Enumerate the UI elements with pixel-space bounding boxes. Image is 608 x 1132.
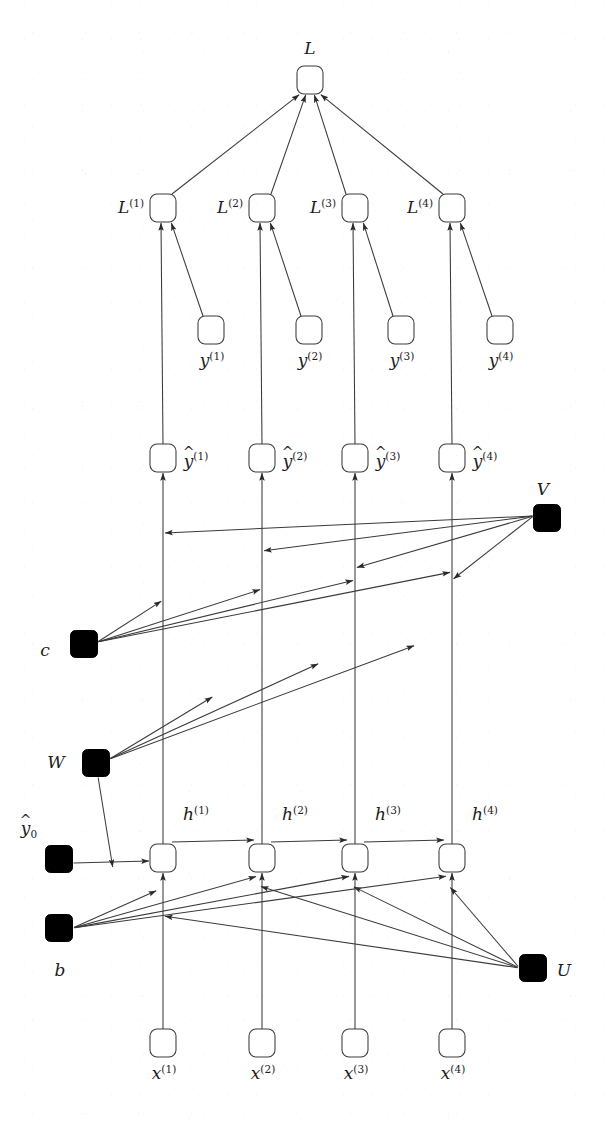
edge-U-to-hidden-2 xyxy=(261,887,518,968)
label-per-step-loss-2: L(2) xyxy=(217,198,243,217)
node-prediction-3 xyxy=(342,444,368,472)
edge-loss-4-to-total-loss xyxy=(321,95,443,194)
edge-W-to-hidden-1 xyxy=(98,777,113,867)
label-target-2: y(2) xyxy=(298,351,322,370)
label-per-step-loss-4: L(4) xyxy=(407,198,433,217)
node-prediction-1 xyxy=(150,444,176,472)
label-prediction-2: y^(2) xyxy=(283,451,307,470)
figure-canvas: LL(1)L(2)L(3)L(4)y(1)y(2)y(3)y(4)y^(1)y^… xyxy=(0,0,608,1132)
node-hidden-1 xyxy=(150,844,176,872)
label-prediction-4: y^(4) xyxy=(473,451,497,470)
edge-recurrent-hidden-3-to-4 xyxy=(364,840,444,842)
edge-prediction-to-loss-1 xyxy=(161,223,163,444)
edge-prediction-to-loss-3 xyxy=(353,223,355,444)
label-target-4: y(4) xyxy=(489,351,513,370)
label-hidden-4: h(4) xyxy=(472,805,498,824)
label-prediction-1: y^(1) xyxy=(184,451,208,470)
edge-target-to-loss-2 xyxy=(270,223,301,316)
node-prediction-2 xyxy=(249,444,275,472)
edge-V-to-prediction-2 xyxy=(264,516,533,551)
edge-V-to-prediction-4 xyxy=(454,517,533,579)
label-target-1: y(1) xyxy=(200,351,224,370)
edges xyxy=(73,95,532,1029)
label-parameter-w: W xyxy=(47,754,64,771)
label-parameter-initial-state: y^0 xyxy=(21,820,37,840)
label-total-loss: L xyxy=(304,40,315,57)
node-target-3 xyxy=(388,316,414,344)
node-input-3 xyxy=(342,1029,368,1057)
label-per-step-loss-3: L(3) xyxy=(310,198,336,217)
label-hidden-1: h(1) xyxy=(183,805,209,824)
node-target-4 xyxy=(487,316,513,344)
label-parameter-c: c xyxy=(40,642,50,659)
edge-loss-2-to-total-loss xyxy=(271,95,306,194)
edge-target-to-loss-4 xyxy=(460,223,492,316)
edge-U-to-hidden-4 xyxy=(450,888,518,967)
edge-U-to-hidden-1 xyxy=(165,916,518,967)
node-parameter-u xyxy=(520,955,547,982)
edge-V-to-prediction-1 xyxy=(165,516,533,533)
edge-recurrent-hidden-2-to-3 xyxy=(271,840,347,842)
node-input-4 xyxy=(439,1029,465,1057)
edge-b-to-hidden-3 xyxy=(74,876,349,927)
edge-b-to-hidden-2 xyxy=(74,877,256,928)
label-parameter-u: U xyxy=(557,962,571,979)
node-input-2 xyxy=(249,1029,275,1057)
node-prediction-4 xyxy=(439,444,465,472)
label-parameter-b: b xyxy=(55,962,66,979)
label-parameter-v: V xyxy=(537,481,549,498)
edge-c-to-prediction-3 xyxy=(98,580,353,641)
node-parameter-h0 xyxy=(46,846,73,873)
edge-target-to-loss-3 xyxy=(363,223,393,316)
edge-loss-3-to-total-loss xyxy=(314,95,346,194)
node-per-step-loss-4 xyxy=(439,194,465,222)
node-parameter-c xyxy=(71,631,98,658)
node-parameter-v xyxy=(534,505,561,532)
edge-U-to-hidden-3 xyxy=(354,887,518,967)
node-target-2 xyxy=(296,316,322,344)
edge-W-to-hidden-2 xyxy=(110,697,212,758)
edge-prediction-to-loss-4 xyxy=(450,223,452,444)
node-hidden-2 xyxy=(249,844,275,872)
node-per-step-loss-1 xyxy=(150,194,176,222)
node-per-step-loss-3 xyxy=(342,194,368,222)
node-parameter-w xyxy=(83,750,110,777)
label-input-2: x(2) xyxy=(251,1064,275,1083)
label-target-3: y(3) xyxy=(390,351,414,370)
edge-prediction-to-loss-2 xyxy=(260,223,262,444)
label-input-1: x(1) xyxy=(152,1064,176,1083)
graph-edges-layer xyxy=(0,0,608,1132)
label-per-step-loss-1: L(1) xyxy=(118,198,144,217)
node-per-step-loss-2 xyxy=(249,194,275,222)
node-parameter-b xyxy=(46,915,73,942)
node-input-1 xyxy=(150,1029,176,1057)
node-hidden-4 xyxy=(439,844,465,872)
label-hidden-3: h(3) xyxy=(375,805,401,824)
label-input-3: x(3) xyxy=(344,1064,368,1083)
edge-c-to-prediction-2 xyxy=(98,590,260,642)
label-hidden-2: h(2) xyxy=(282,805,308,824)
edge-recurrent-hidden-1-to-2 xyxy=(172,840,254,842)
edge-V-to-prediction-3 xyxy=(357,516,533,567)
edge-W-to-hidden-3 xyxy=(110,664,318,759)
label-prediction-3: y^(3) xyxy=(376,451,400,470)
edge-loss-1-to-total-loss xyxy=(172,95,299,194)
edge-target-to-loss-1 xyxy=(171,223,203,316)
node-target-1 xyxy=(198,316,224,344)
node-total-loss xyxy=(297,66,323,94)
node-hidden-3 xyxy=(342,844,368,872)
label-input-4: x(4) xyxy=(441,1064,465,1083)
